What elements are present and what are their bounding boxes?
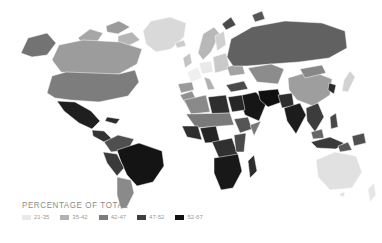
region-southeast-asia	[306, 103, 324, 132]
region-malaysia	[311, 129, 324, 139]
region-italy	[204, 77, 215, 90]
region-caribbean	[105, 117, 120, 124]
legend-item: 35-42	[60, 214, 87, 220]
region-southern-africa	[214, 154, 242, 190]
region-tasmania	[340, 192, 345, 197]
region-papua-new-guinea	[352, 133, 366, 146]
legend-title: PERCENTAGE OF TOTAL	[22, 201, 203, 210]
legend-label: 21-35	[34, 214, 49, 220]
legend-swatch	[60, 215, 69, 220]
region-alaska	[21, 33, 56, 57]
legend-swatch	[175, 215, 184, 220]
legend-item: 52-67	[175, 214, 202, 220]
region-uk-ireland	[183, 53, 192, 68]
region-kazakhstan-central-asia	[248, 64, 284, 84]
region-australia	[316, 152, 362, 190]
region-central-europe	[199, 61, 213, 74]
legend-items: 21-3535-4242-4747-5252-67	[22, 214, 203, 220]
region-france	[187, 67, 202, 82]
region-egypt	[228, 95, 245, 112]
region-usa	[47, 70, 139, 102]
region-somalia	[250, 121, 261, 136]
region-india	[284, 103, 306, 134]
legend-swatch	[99, 215, 108, 220]
region-novaya-zemlya	[222, 17, 236, 30]
region-libya	[208, 95, 230, 114]
legend-label: 42-47	[111, 214, 126, 220]
region-west-africa	[182, 126, 202, 140]
region-canadian-arctic-east	[106, 21, 130, 34]
legend: PERCENTAGE OF TOTAL 21-3535-4242-4747-52…	[22, 201, 203, 220]
legend-item: 47-52	[137, 214, 164, 220]
region-japan	[342, 71, 355, 92]
region-turkey	[226, 81, 248, 92]
legend-item: 21-35	[22, 214, 49, 220]
region-east-africa	[234, 133, 246, 152]
region-ethiopia	[234, 117, 252, 133]
region-severnaya-zemlya	[252, 11, 265, 22]
legend-swatch	[22, 215, 31, 220]
map-page: PERCENTAGE OF TOTAL 21-3535-4242-4747-52…	[0, 0, 382, 243]
region-philippines	[330, 113, 338, 129]
legend-swatch	[137, 215, 146, 220]
region-russia	[227, 21, 347, 66]
region-canada	[52, 40, 142, 76]
legend-label: 52-67	[187, 214, 202, 220]
legend-item: 42-47	[99, 214, 126, 220]
legend-label: 35-42	[72, 214, 87, 220]
region-nigeria	[200, 126, 220, 143]
region-madagascar	[248, 155, 257, 178]
legend-label: 47-52	[149, 214, 164, 220]
region-new-zealand	[368, 183, 376, 202]
region-mexico	[57, 101, 100, 129]
